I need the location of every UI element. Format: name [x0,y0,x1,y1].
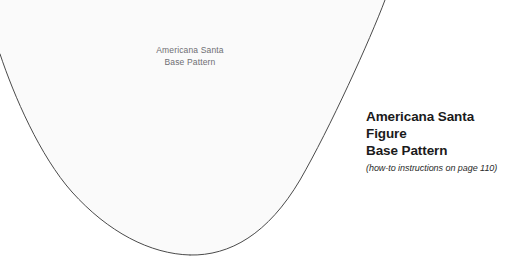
caption-block: Americana Santa Figure Base Pattern (how… [366,108,514,174]
pattern-inner-label: Americana Santa Base Pattern [130,44,250,68]
caption-subline: (how-to instructions on page 110) [366,162,514,174]
pattern-fill [0,0,385,255]
pattern-page: Americana Santa Base Pattern Americana S… [0,0,516,262]
caption-headline: Americana Santa Figure Base Pattern [366,108,514,159]
